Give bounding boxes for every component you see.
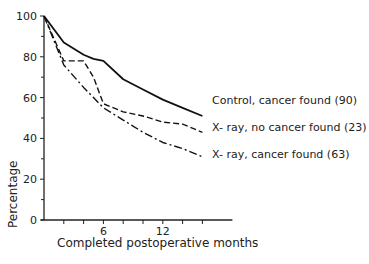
y-tick-label: 40 <box>23 132 37 145</box>
series-line-2 <box>44 16 202 132</box>
y-tick-label: 100 <box>16 10 37 23</box>
series-label-1: Control, cancer found (90) <box>212 94 357 107</box>
y-tick-label: 20 <box>23 173 37 186</box>
survival-line-chart: 020406080100612 Control, cancer found (9… <box>0 0 369 264</box>
series-label-2: X- ray, no cancer found (23) <box>212 121 367 134</box>
axes: 020406080100612 <box>16 10 232 238</box>
series-label-3: X- ray, cancer found (63) <box>212 148 349 161</box>
series-lines <box>44 16 202 157</box>
x-axis-label: Completed postoperative months <box>57 236 258 250</box>
series-labels: Control, cancer found (90)X- ray, no can… <box>212 94 367 161</box>
y-axis-label: Percentage <box>6 160 20 228</box>
series-line-1 <box>44 16 202 116</box>
y-tick-label: 60 <box>23 92 37 105</box>
series-line-3 <box>44 16 202 157</box>
y-tick-label: 0 <box>30 214 37 227</box>
y-tick-label: 80 <box>23 51 37 64</box>
